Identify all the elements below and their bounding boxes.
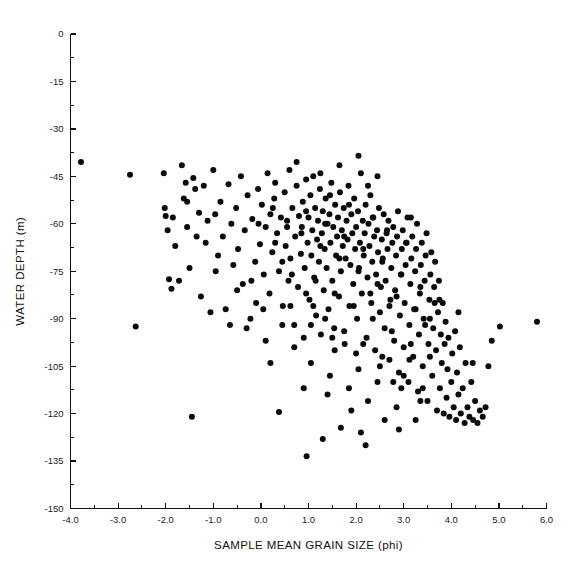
data-point [300,199,306,205]
data-point [242,227,248,233]
data-point [428,249,434,255]
data-point [394,233,400,239]
data-point [332,290,338,296]
data-point [194,233,200,239]
data-point [317,243,323,249]
y-tick-group: 0-15-30-45-60-75-90-105-120-135-150 [44,28,76,514]
data-point [442,341,448,347]
data-point [298,230,304,236]
data-point [408,256,414,262]
data-point [451,404,457,410]
data-point [424,230,430,236]
data-point [192,186,198,192]
data-point [443,319,449,325]
data-point [372,347,378,353]
data-point [261,271,267,277]
data-point [291,322,297,328]
data-point [365,221,371,227]
data-point [295,284,301,290]
data-point [434,407,440,413]
data-point [327,240,333,246]
data-point [252,259,258,265]
data-point [307,192,313,198]
data-point [341,328,347,334]
data-point [183,180,189,186]
data-point [392,287,398,293]
data-point [263,338,269,344]
data-point [187,265,193,271]
data-point [347,262,353,268]
data-point [395,208,401,214]
data-point [308,252,314,258]
data-point [387,297,393,303]
data-point [425,341,431,347]
data-point [266,290,272,296]
x-tick-group: -4.0-3.0-2.0-1.00.01.02.03.04.05.06.0 [62,503,553,525]
scatter-plot-figure: -4.0-3.0-2.0-1.00.01.02.03.04.05.06.00-1… [0,0,569,564]
x-tick-label: -3.0 [110,514,126,525]
data-point [196,210,202,216]
data-point [449,351,455,357]
data-point [235,246,241,252]
data-point [267,360,273,366]
data-point [334,233,340,239]
data-point [355,366,361,372]
data-point [328,180,334,186]
data-point [386,357,392,363]
data-point [431,284,437,290]
data-point [348,211,354,217]
data-point [190,175,196,181]
data-point [238,173,244,179]
data-point [228,221,234,227]
data-point [198,294,204,300]
data-point [375,281,381,287]
y-tick-label: -120 [44,408,63,419]
data-point [272,180,278,186]
data-point [257,241,263,247]
data-point [382,417,388,423]
data-point [405,379,411,385]
data-point [230,262,236,268]
data-point [386,303,392,309]
data-point [336,256,342,262]
data-point [413,246,419,252]
data-point [184,199,190,205]
data-point [454,369,460,375]
data-point [270,205,276,211]
data-point [406,322,412,328]
data-point [284,224,290,230]
data-point [468,379,474,385]
data-point [320,436,326,442]
data-point [455,392,461,398]
axes-group [71,34,547,509]
data-point [358,170,364,176]
data-point [309,227,315,233]
data-point [435,309,441,315]
data-point [324,265,330,271]
data-point [458,411,464,417]
data-point [355,153,361,159]
data-point [161,170,167,176]
data-point [357,240,363,246]
data-point [373,271,379,277]
data-point [203,240,209,246]
data-point [304,453,310,459]
data-point [282,189,288,195]
data-point [416,332,422,338]
data-point [360,246,366,252]
data-point [245,192,251,198]
data-point [371,233,377,239]
data-point [176,278,182,284]
data-point [212,211,218,217]
data-point [398,271,404,277]
data-point [317,186,323,192]
data-point [438,332,444,338]
data-point [276,268,282,274]
data-point [289,271,295,277]
data-point [310,303,316,309]
x-tick-label: -1.0 [205,514,221,525]
data-point [401,373,407,379]
data-point [385,246,391,252]
data-point [384,227,390,233]
data-point [444,395,450,401]
